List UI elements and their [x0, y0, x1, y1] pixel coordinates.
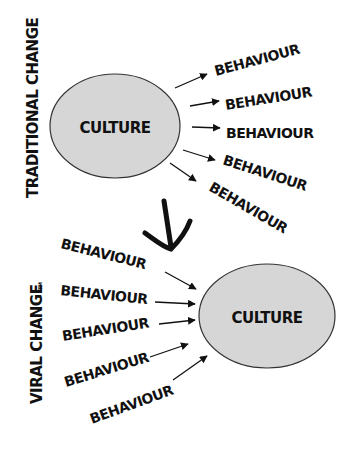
viral-change-section: VIRAL CHANGE TM CULTURE BEHAVIOUR BEHAVI…: [28, 235, 335, 426]
viral-change-label: VIRAL CHANGE: [28, 284, 46, 404]
traditional-change-label: TRADITIONAL CHANGE: [24, 18, 42, 198]
viral-culture-label: CULTURE: [232, 309, 303, 327]
arrow-in-5: [173, 356, 207, 380]
behaviour-out-2: BEHAVIOUR: [224, 83, 314, 113]
traditional-culture-label: CULTURE: [80, 119, 151, 137]
arrow-out-2: [190, 101, 219, 106]
arrow-out-3: [192, 127, 220, 128]
behaviour-in-4: BEHAVIOUR: [62, 349, 151, 390]
diagram-canvas: TRADITIONAL CHANGE CULTURE BEHAVIOUR BEH…: [0, 0, 356, 449]
traditional-change-section: TRADITIONAL CHANGE CULTURE BEHAVIOUR BEH…: [24, 18, 314, 237]
down-arrow-icon: [145, 201, 190, 249]
arrow-in-4: [150, 344, 188, 357]
behaviour-out-1: BEHAVIOUR: [213, 41, 302, 79]
arrow-in-3: [159, 320, 195, 324]
arrow-out-4: [183, 150, 215, 160]
behaviour-in-5: BEHAVIOUR: [88, 382, 176, 427]
behaviour-in-2: BEHAVIOUR: [60, 282, 149, 307]
behaviour-out-5: BEHAVIOUR: [207, 179, 291, 237]
behaviour-in-1: BEHAVIOUR: [59, 235, 148, 272]
arrow-out-1: [175, 74, 207, 88]
behaviour-out-3: BEHAVIOUR: [226, 125, 314, 141]
arrow-in-1: [165, 272, 196, 289]
behaviour-out-4: BEHAVIOUR: [221, 152, 310, 194]
trademark-mark: TM: [37, 282, 43, 290]
arrow-in-2: [155, 302, 195, 304]
arrow-out-5: [170, 163, 196, 181]
behaviour-in-3: BEHAVIOUR: [61, 314, 151, 344]
